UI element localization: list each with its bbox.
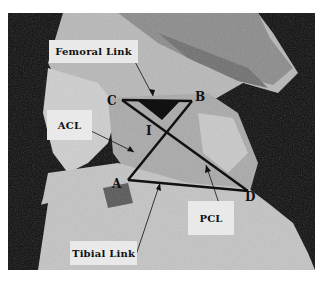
point-i-label: I xyxy=(146,124,152,138)
tibial-link-label: Tibial Link xyxy=(70,241,137,265)
point-a-label: A xyxy=(112,177,121,191)
acl-label: ACL xyxy=(47,110,92,140)
point-c-label: C xyxy=(107,94,117,108)
point-d-label: D xyxy=(245,190,255,204)
femoral-link-label: Femoral Link xyxy=(49,40,138,63)
tibial-link-leader xyxy=(135,183,160,258)
tibial-link-line xyxy=(128,180,248,191)
pcl-label: PCL xyxy=(188,201,234,235)
point-b-label: B xyxy=(195,90,205,104)
acl-leader xyxy=(85,128,134,152)
pcl-line xyxy=(122,100,248,191)
femoral-link-line xyxy=(122,100,192,101)
